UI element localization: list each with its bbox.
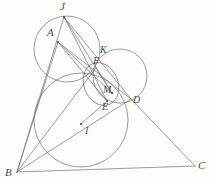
point-label-E: E	[102, 102, 108, 112]
point-label-B: B	[5, 167, 12, 178]
point-label-C: C	[198, 160, 205, 171]
segment-DC	[131, 99, 195, 166]
segment-BD	[17, 99, 131, 172]
segment-BC	[17, 166, 195, 172]
circle-incircle	[34, 73, 128, 167]
dot-A	[57, 41, 59, 43]
point-label-F: F	[93, 56, 99, 66]
segment-JE	[64, 17, 107, 101]
segment-BF	[17, 68, 96, 172]
point-label-I: I	[85, 126, 88, 136]
point-label-M: M	[103, 85, 111, 95]
circles-group	[34, 16, 147, 167]
dot-J	[63, 16, 65, 18]
point-label-J: J	[60, 1, 65, 12]
segment-BJ	[17, 17, 64, 172]
point-label-K: K	[100, 45, 107, 55]
dot-I	[80, 123, 82, 125]
point-label-A: A	[47, 27, 54, 38]
point-label-D: D	[133, 95, 140, 105]
geometry-figure: J A K F M E D I B C	[0, 0, 216, 184]
